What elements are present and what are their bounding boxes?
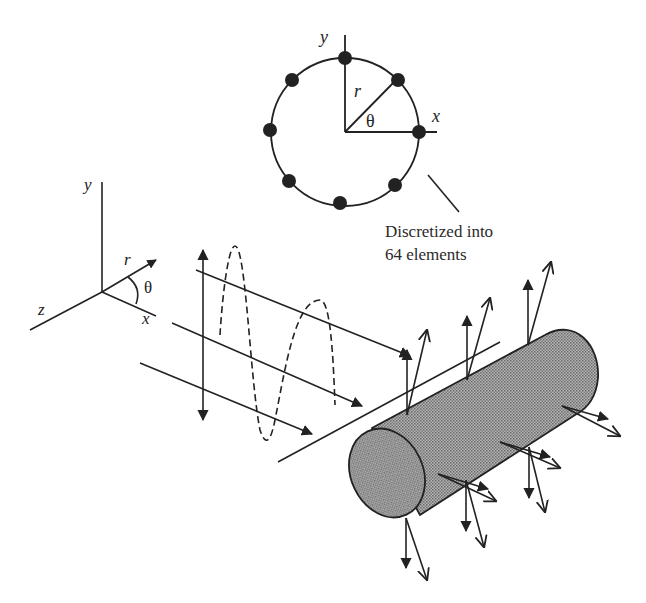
- annotation-pointer-line: [428, 175, 459, 212]
- axis-theta-label: θ: [144, 278, 152, 297]
- node-dot: [282, 174, 296, 188]
- cross-section-theta-label: θ: [366, 111, 375, 131]
- node-dot: [391, 73, 405, 87]
- node-dot: [263, 123, 277, 137]
- scattered-vector: [529, 447, 545, 512]
- node-dot: [333, 196, 347, 210]
- node-dot: [412, 125, 426, 139]
- annotation-line-2: 64 elements: [385, 245, 467, 264]
- coordinate-axes: [30, 182, 156, 330]
- scattered-vector: [466, 480, 484, 547]
- node-dot: [388, 178, 402, 192]
- scattered-vector: [562, 406, 620, 436]
- axis-x-label: x: [141, 309, 150, 328]
- node-dot: [338, 51, 352, 65]
- incident-ray-2: [172, 323, 362, 406]
- axis-r-label: r: [124, 250, 131, 269]
- scattered-vector: [406, 518, 427, 580]
- axis-z-label: z: [37, 300, 45, 319]
- cross-section-y-label: y: [318, 27, 328, 47]
- cross-section-r-label: r: [354, 81, 362, 101]
- axis-y-label: y: [82, 175, 92, 194]
- node-dot: [285, 73, 299, 87]
- scattered-vector: [528, 262, 551, 345]
- incident-ray-1: [196, 270, 410, 356]
- annotation-line-1: Discretized into: [385, 222, 493, 241]
- cross-section-x-label: x: [431, 106, 440, 126]
- theta-arc: [128, 277, 138, 304]
- dashed-sine-wave: [220, 246, 335, 440]
- scattering-figure: y x r θ Discretized into 64 elements y z…: [0, 0, 646, 603]
